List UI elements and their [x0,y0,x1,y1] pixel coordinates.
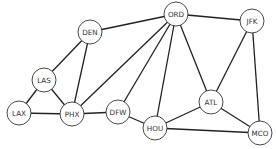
node-label: MCO [252,129,269,138]
node-label: HOU [147,124,163,133]
airport-nodes: ORDJFKDENLASLAXPHXDFWHOUATLMCO [7,2,272,145]
route-edges [19,14,260,133]
node-label: DFW [110,108,127,117]
node-den: DEN [78,20,102,44]
node-label: DEN [82,28,97,37]
node-label: ATL [205,98,218,107]
node-lax: LAX [7,101,31,125]
edge-hou-mco [155,128,260,133]
airport-route-graph: ORDJFKDENLASLAXPHXDFWHOUATLMCO [0,0,276,149]
node-dfw: DFW [106,100,130,124]
node-label: JFK [246,17,258,26]
node-mco: MCO [248,121,272,145]
node-atl: ATL [199,90,223,114]
node-label: LAX [12,109,26,118]
edge-den-ord [90,14,176,32]
node-label: ORD [168,10,185,19]
node-jfk: JFK [240,9,264,33]
node-phx: PHX [60,102,84,126]
node-label: LAS [37,76,51,85]
edge-ord-atl [176,14,211,102]
edge-jfk-atl [211,21,252,102]
node-label: PHX [65,110,80,119]
node-ord: ORD [164,2,188,26]
node-hou: HOU [143,116,167,140]
node-las: LAS [32,68,56,92]
edge-den-phx [72,32,90,114]
edge-jfk-mco [252,21,260,133]
